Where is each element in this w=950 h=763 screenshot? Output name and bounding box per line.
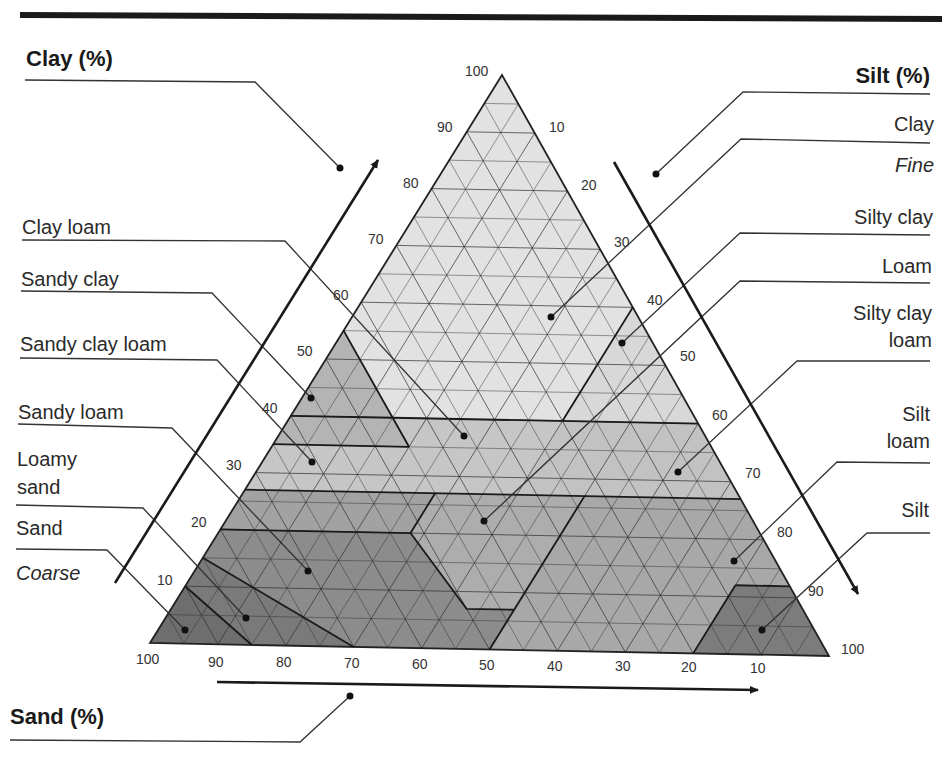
label-sand: Sand: [16, 517, 63, 539]
clay-tick-50: 50: [297, 344, 313, 358]
texture-triangle: [0, 0, 950, 763]
silt-tick-40: 40: [647, 293, 663, 307]
silt-tick-30: 30: [614, 235, 630, 249]
silt-tick-90: 90: [808, 584, 824, 598]
clay-tick-90: 90: [437, 120, 453, 134]
clay-tick-10: 10: [157, 573, 173, 587]
label-sandy-clay-loam: Sandy clay loam: [20, 333, 167, 355]
soil-texture-diagram: Clay (%) Silt (%) Sand (%) Clay loam San…: [0, 0, 950, 763]
label-silt-loam-1: Silt: [902, 403, 930, 425]
label-loamy-sand-1: Loamy: [17, 448, 77, 470]
label-loamy-sand-2: sand: [17, 476, 60, 498]
silt-tick-70: 70: [745, 466, 761, 480]
sand-tick-90: 90: [208, 655, 224, 669]
label-clay-loam: Clay loam: [22, 216, 111, 238]
sand-tick-70: 70: [344, 656, 360, 670]
label-silt-loam-2: loam: [887, 430, 930, 452]
label-silty-clay-loam-2: loam: [889, 329, 932, 351]
clay-tick-20: 20: [191, 515, 207, 529]
clay-axis-title: Clay (%): [26, 48, 113, 70]
label-loam: Loam: [882, 255, 932, 277]
clay-tick-70: 70: [368, 232, 384, 246]
silt-axis-title: Silt (%): [855, 65, 930, 87]
label-silty-clay-loam-1: Silty clay: [853, 302, 932, 324]
silt-tick-20: 20: [581, 178, 597, 192]
silt-tick-50: 50: [680, 349, 696, 363]
label-clay: Clay: [894, 113, 934, 135]
sand-tick-40: 40: [547, 659, 563, 673]
label-coarse: Coarse: [16, 562, 80, 584]
label-sandy-clay: Sandy clay: [21, 268, 119, 290]
silt-tick-60: 60: [712, 408, 728, 422]
clay-tick-80: 80: [403, 176, 419, 190]
clay-tick-40: 40: [262, 401, 278, 415]
label-silt: Silt: [901, 499, 929, 521]
sand-tick-30: 30: [615, 659, 631, 673]
class-regions: [150, 75, 829, 656]
silt-tick-10: 10: [549, 120, 565, 134]
clay-tick-30: 30: [226, 458, 242, 472]
label-fine: Fine: [895, 154, 934, 176]
clay-tick-100: 100: [465, 64, 488, 78]
sand-tick-100: 100: [136, 652, 159, 666]
silt-tick-100: 100: [841, 642, 864, 656]
label-silty-clay: Silty clay: [854, 206, 933, 228]
sand-tick-10: 10: [750, 661, 766, 675]
clay-tick-60: 60: [333, 288, 349, 302]
sand-axis-title: Sand (%): [10, 706, 104, 728]
sand-tick-60: 60: [412, 657, 428, 671]
sand-tick-80: 80: [276, 655, 292, 669]
sand-tick-50: 50: [479, 658, 495, 672]
sand-tick-20: 20: [681, 660, 697, 674]
silt-tick-80: 80: [777, 525, 793, 539]
label-sandy-loam: Sandy loam: [18, 401, 124, 423]
